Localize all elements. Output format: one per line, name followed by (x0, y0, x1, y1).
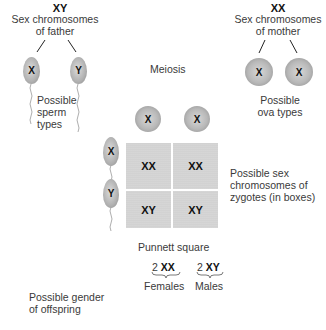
mother-label: Sex chromosomes of mother (223, 13, 326, 37)
zygotes-label: Possible sex chromosomes of zygotes (in … (230, 167, 315, 203)
punnett-caption: Punnett square (138, 241, 209, 253)
sperm-y-icon: Y (70, 57, 87, 84)
punnett-col-ovum-icon: X (135, 106, 161, 132)
punnett-row-sperm-icon: X (103, 137, 119, 166)
punnett-cell: XY (126, 191, 171, 228)
meiosis-label: Meiosis (150, 63, 186, 75)
punnett-cell: XX (126, 143, 171, 189)
offspring-gender-female: Females (144, 280, 184, 292)
sperm-types-label: Possible sperm types (37, 94, 77, 130)
offspring-count-female: 2 XX (152, 261, 175, 273)
ova-types-label: Possible ova types (240, 94, 320, 118)
punnett-col-ovum-icon: X (184, 106, 210, 132)
punnett-cell: XY (173, 191, 218, 228)
sperm-x-icon: X (23, 57, 40, 84)
offspring-gender-male: Males (195, 280, 223, 292)
offspring-gender-label: Possible gender of offspring (29, 291, 104, 315)
ovum-x-icon: X (245, 58, 273, 86)
punnett-cell: XX (173, 143, 218, 189)
offspring-count-male: 2 XY (197, 261, 220, 273)
ovum-x-icon: X (285, 58, 313, 86)
punnett-row-sperm-icon: Y (103, 179, 119, 208)
